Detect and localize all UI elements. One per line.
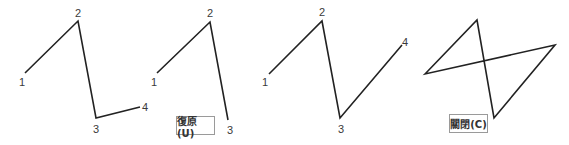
step-4-close-polyline — [425, 20, 555, 118]
point-label: 1 — [19, 77, 25, 88]
point-label: 2 — [75, 8, 81, 19]
point-label: 1 — [151, 77, 157, 88]
step-3-polyline — [269, 21, 402, 118]
point-label: 4 — [142, 102, 148, 113]
step-2-undo-polyline — [157, 22, 228, 120]
point-label: 3 — [227, 125, 233, 136]
point-label: 3 — [93, 124, 99, 135]
point-label: 3 — [338, 124, 344, 135]
point-label: 2 — [207, 8, 213, 19]
point-label: 1 — [262, 77, 268, 88]
undo-button[interactable]: 復原(U) — [176, 116, 215, 135]
point-label: 4 — [402, 37, 408, 48]
point-label: 2 — [319, 7, 325, 18]
close-button[interactable]: 關閉(C) — [449, 114, 488, 133]
polyline-diagram: 1 2 3 4 1 2 3 復原(U) 1 2 3 4 關閉(C) — [0, 0, 569, 145]
step-1-polyline — [25, 21, 140, 118]
